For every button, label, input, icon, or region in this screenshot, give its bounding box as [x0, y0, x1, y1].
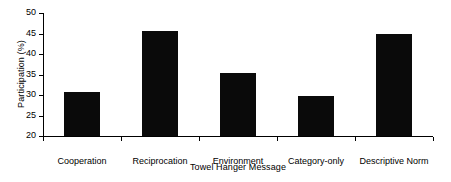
- y-axis-tick: 30: [39, 95, 43, 96]
- y-axis-tick-label: 45: [26, 28, 36, 39]
- bar: [220, 73, 256, 136]
- bar: [376, 34, 412, 136]
- x-axis-tick: [277, 137, 278, 141]
- x-axis-tick: [355, 137, 356, 141]
- y-axis-tick-label: 50: [26, 7, 36, 18]
- y-axis-tick: 35: [39, 75, 43, 76]
- bar: [298, 96, 334, 136]
- y-axis-spine: [43, 13, 44, 137]
- y-axis-tick-label: 40: [26, 48, 36, 59]
- y-axis-tick: 25: [39, 116, 43, 117]
- bar-chart-figure: Participation (%) 20253035404550 Coopera…: [0, 0, 451, 182]
- y-axis-tick-label: 25: [26, 110, 36, 121]
- bar: [142, 31, 178, 136]
- x-axis-tick: [199, 137, 200, 141]
- x-axis-tick: [121, 137, 122, 141]
- bar: [64, 92, 100, 136]
- y-axis-tick: 50: [39, 13, 43, 14]
- y-axis-tick: 45: [39, 34, 43, 35]
- x-axis-title: Towel Hanger Message: [43, 161, 433, 173]
- plot-area: 20253035404550 CooperationReciprocationE…: [43, 13, 433, 137]
- y-axis-tick-label: 35: [26, 69, 36, 80]
- x-axis-spine: [43, 136, 433, 137]
- x-axis-tick: [433, 137, 434, 141]
- y-axis-tick-label: 20: [26, 130, 36, 141]
- y-axis-tick: 40: [39, 54, 43, 55]
- x-axis-tick: [43, 137, 44, 141]
- y-axis-tick-label: 30: [26, 89, 36, 100]
